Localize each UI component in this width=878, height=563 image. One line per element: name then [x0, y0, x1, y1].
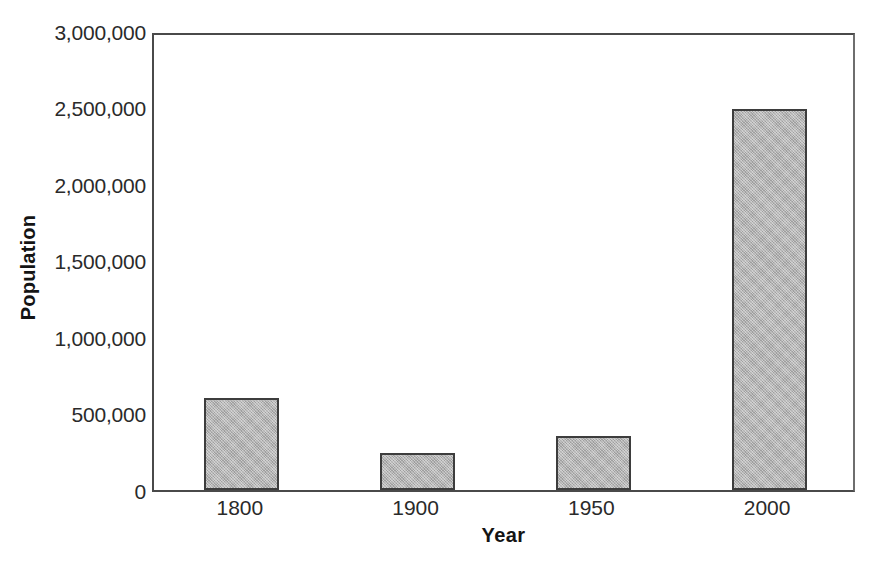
bar[interactable]	[556, 436, 631, 490]
y-tick-label: 2,500,000	[54, 98, 146, 119]
y-tick-label: 2,000,000	[54, 175, 146, 196]
y-tick-label: 3,000,000	[54, 22, 146, 43]
x-tick-label: 1900	[328, 496, 504, 520]
bar[interactable]	[732, 109, 807, 490]
x-axis-title: Year	[152, 524, 855, 547]
y-tick-label: 500,000	[71, 404, 146, 425]
bar[interactable]	[204, 398, 279, 490]
plot-area	[152, 33, 855, 492]
x-tick-label: 1800	[152, 496, 328, 520]
x-axis-tick-labels: 1800 1900 1950 2000	[152, 496, 855, 522]
bar[interactable]	[380, 453, 455, 490]
y-tick-label: 1,000,000	[54, 328, 146, 349]
x-tick-label: 1950	[504, 496, 680, 520]
y-tick-label: 1,500,000	[54, 251, 146, 272]
y-axis-title: Population	[17, 178, 40, 358]
x-tick-label: 2000	[679, 496, 855, 520]
bars-layer	[154, 35, 853, 490]
bar-chart-figure: 3,000,000 2,500,000 2,000,000 1,500,000 …	[0, 0, 878, 563]
y-tick-label: 0	[135, 481, 146, 502]
